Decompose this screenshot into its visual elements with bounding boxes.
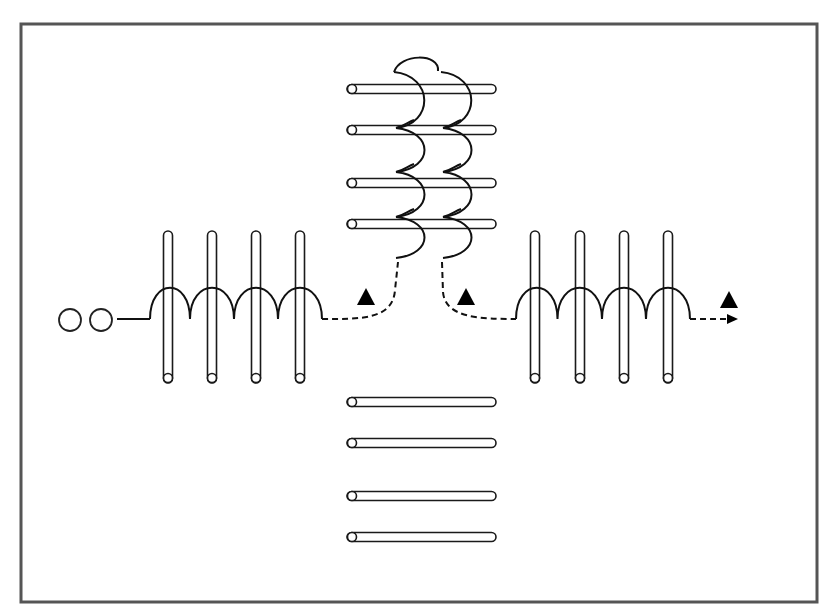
terminal-circle-icon [90, 309, 112, 331]
rod-end-icon [252, 374, 261, 383]
input-terminal [59, 309, 150, 331]
vertical-rod [296, 231, 305, 383]
rod-end-icon [348, 398, 357, 407]
vertical-rod [252, 231, 261, 383]
diagram-frame [21, 24, 817, 602]
rod-end-icon [348, 126, 357, 135]
triangle-marker-icon [720, 291, 738, 308]
rod-end-icon [348, 492, 357, 501]
vertical-rod [620, 231, 629, 383]
left-rod-group [150, 231, 322, 383]
rod-end-icon [664, 374, 673, 383]
horizontal-rod [347, 492, 496, 501]
diagram-svg [0, 0, 832, 615]
vertical-rod [576, 231, 585, 383]
rod-end-icon [348, 533, 357, 542]
rod-end-icon [620, 374, 629, 383]
horizontal-rod [347, 126, 496, 135]
rod-end-icon [348, 179, 357, 188]
rod-end-icon [576, 374, 585, 383]
triangle-marker-icon [457, 288, 475, 305]
rod-end-icon [164, 374, 173, 383]
rod-end-icon [348, 220, 357, 229]
dashed-path-center-to-right [442, 262, 516, 319]
right-rod-group [516, 231, 690, 383]
bottom-rod-group [347, 398, 496, 542]
terminal-circle-icon [59, 309, 81, 331]
horizontal-rod [347, 533, 496, 542]
top-rod-group [347, 58, 496, 258]
vertical-rod [164, 231, 173, 383]
vertical-rod [531, 231, 540, 383]
coil-top-cap [394, 58, 438, 72]
diagram-canvas [0, 0, 832, 615]
rod-end-icon [531, 374, 540, 383]
triangle-marker-icon [357, 288, 375, 305]
vertical-rod [208, 231, 217, 383]
dashed-path-left-to-center [322, 262, 398, 319]
rod-end-icon [348, 439, 357, 448]
arrowhead-icon [727, 314, 738, 324]
rod-end-icon [348, 85, 357, 94]
horizontal-rod [347, 439, 496, 448]
vertical-rod [664, 231, 673, 383]
horizontal-rod [347, 398, 496, 407]
rod-end-icon [208, 374, 217, 383]
rod-end-icon [296, 374, 305, 383]
